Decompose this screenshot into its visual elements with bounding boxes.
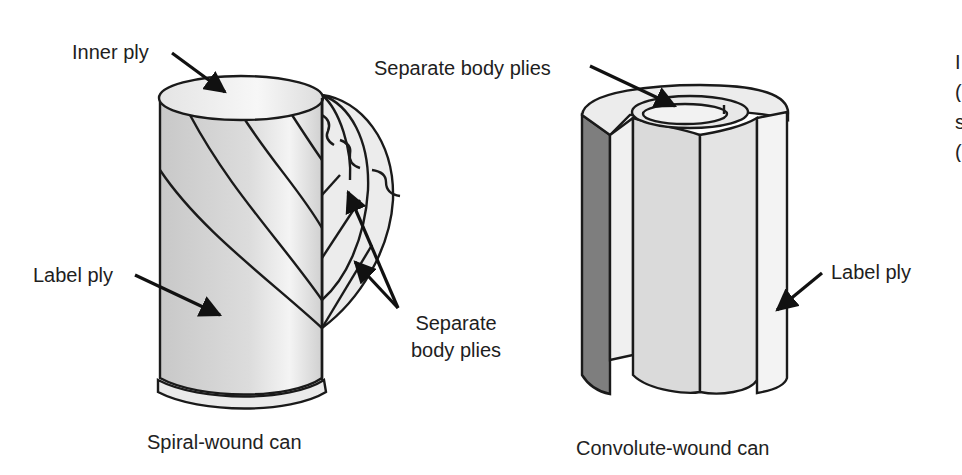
convolute-separate-body-plies-label: Separate body plies <box>374 58 551 78</box>
clipped-text-fragment: I <box>955 52 962 72</box>
convolute-wound-can <box>582 85 788 394</box>
spiral-label-ply-label: Label ply <box>33 265 113 285</box>
clipped-text-fragment: s <box>955 112 962 132</box>
convolute-label-ply-label: Label ply <box>831 262 911 282</box>
clipped-text-fragment: ( <box>955 142 962 162</box>
convolute-wound-caption: Convolute-wound can <box>576 438 769 458</box>
spiral-wound-can <box>158 76 400 409</box>
inner-ply-label: Inner ply <box>72 42 149 62</box>
spiral-separate-body-plies-label: Separate body plies <box>400 310 512 364</box>
spiral-separate-line1: Separate <box>400 310 512 337</box>
spiral-separate-line2: body plies <box>400 337 512 364</box>
clipped-text-fragment: ( <box>955 82 962 102</box>
spiral-wound-caption: Spiral-wound can <box>147 432 302 452</box>
